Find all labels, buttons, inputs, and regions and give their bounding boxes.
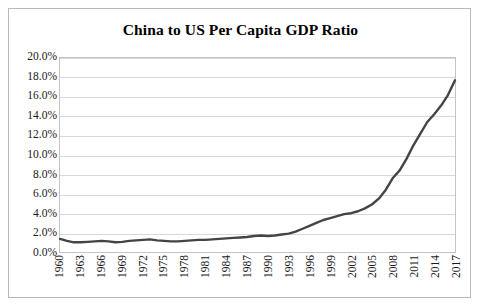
x-axis-tick-label: 1969 [116, 255, 128, 278]
y-axis-tick-label: 18.0% [9, 71, 57, 83]
x-axis-tick-label: 1978 [178, 255, 190, 278]
x-axis-tick-label: 1987 [241, 255, 253, 278]
x-axis-tick-labels: 1960196319661969197219751978198119841987… [59, 255, 456, 299]
y-axis-tick-label: 14.0% [9, 110, 57, 122]
y-axis-tick-labels: 0.0%2.0%4.0%6.0%8.0%10.0%12.0%14.0%16.0%… [9, 57, 57, 253]
x-axis-tick-label: 2008 [387, 255, 399, 278]
x-axis-tick-label: 1960 [53, 255, 65, 278]
chart-figure: China to US Per Capita GDP Ratio 0.0%2.0… [8, 8, 471, 298]
x-axis-tick-label: 2002 [346, 255, 358, 278]
x-axis-tick-label: 2005 [366, 255, 378, 278]
x-axis-tick-label: 1972 [137, 255, 149, 278]
x-axis-tick-label: 1993 [283, 255, 295, 278]
x-axis-tick-label: 2011 [408, 255, 420, 278]
chart-title: China to US Per Capita GDP Ratio [9, 21, 472, 39]
gdp-ratio-line [60, 80, 455, 242]
x-axis-tick-label: 1963 [74, 255, 86, 278]
x-axis-tick-label: 2017 [450, 255, 462, 278]
y-axis-tick-label: 12.0% [9, 129, 57, 141]
y-axis-tick-label: 8.0% [9, 169, 57, 181]
plot-area [59, 57, 456, 253]
x-axis-tick-label: 1996 [304, 255, 316, 278]
y-axis-tick-label: 20.0% [9, 51, 57, 63]
y-axis-tick-label: 4.0% [9, 208, 57, 220]
y-axis-tick-label: 16.0% [9, 90, 57, 102]
y-axis-tick-label: 0.0% [9, 247, 57, 259]
y-axis-tick-label: 6.0% [9, 188, 57, 200]
x-axis-tick-label: 1990 [262, 255, 274, 278]
x-axis-tick-label: 1984 [220, 255, 232, 278]
x-axis-tick-label: 1999 [325, 255, 337, 278]
line-series [60, 58, 455, 252]
y-axis-tick-label: 2.0% [9, 227, 57, 239]
x-axis-tick-label: 1975 [157, 255, 169, 278]
y-axis-tick-label: 10.0% [9, 149, 57, 161]
x-axis-tick-label: 1966 [95, 255, 107, 278]
x-axis-tick-label: 1981 [199, 255, 211, 278]
x-axis-tick-label: 2014 [429, 255, 441, 278]
